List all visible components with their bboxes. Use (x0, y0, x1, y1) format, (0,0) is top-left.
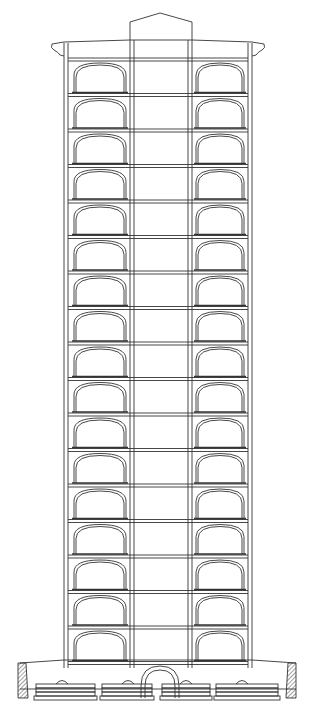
building-section-svg (0, 0, 314, 716)
section-drawing (0, 0, 314, 716)
